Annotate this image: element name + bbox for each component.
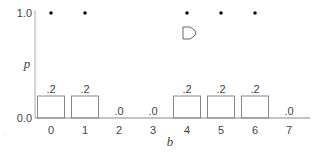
chart: 1.0 0.0 p b .20.21.02.03.24.25.26.07 (0, 0, 323, 154)
bar-value-label: .2 (216, 83, 225, 95)
bars-group: .20.21.02.03.24.25.26.07 (38, 83, 294, 136)
data-dot (253, 11, 257, 15)
cursor-shape-icon (183, 27, 196, 39)
bar-value-label: .0 (114, 105, 123, 117)
y-axis-label: p (23, 56, 31, 71)
bar-4 (174, 96, 201, 118)
bar-value-label: .2 (80, 83, 89, 95)
bar-1 (72, 96, 99, 118)
x-tick-label: 2 (116, 124, 122, 136)
x-axis-label: b (167, 134, 174, 149)
x-tick-label: 6 (252, 124, 258, 136)
bar-value-label: .0 (284, 105, 293, 117)
data-dot (83, 11, 87, 15)
bar-value-label: .2 (46, 83, 55, 95)
x-tick-label: 7 (286, 124, 292, 136)
x-tick-label: 5 (218, 124, 224, 136)
y-tick-top: 1.0 (17, 7, 32, 19)
data-dot (185, 11, 189, 15)
bar-5 (208, 96, 235, 118)
speck-mark (4, 132, 5, 133)
bar-value-label: .2 (250, 83, 259, 95)
data-dot (49, 11, 53, 15)
bar-value-label: .2 (182, 83, 191, 95)
x-tick-label: 1 (82, 124, 88, 136)
x-tick-label: 4 (184, 124, 190, 136)
x-tick-label: 0 (48, 124, 54, 136)
dots-group (49, 11, 257, 15)
y-tick-bottom: 0.0 (17, 112, 32, 124)
x-tick-label: 3 (150, 124, 156, 136)
data-dot (219, 11, 223, 15)
bar-6 (242, 96, 269, 118)
bar-value-label: .0 (148, 105, 157, 117)
bar-0 (38, 96, 65, 118)
